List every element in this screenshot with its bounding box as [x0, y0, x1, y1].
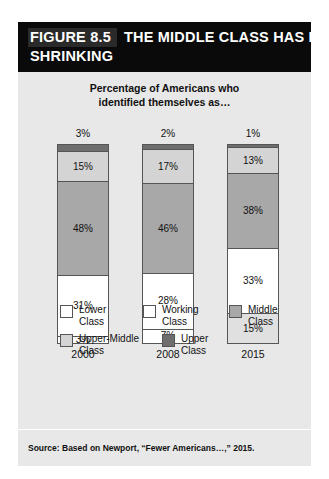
- legend-label: LowerClass: [73, 304, 106, 328]
- legend-label-line-2: Class: [181, 345, 206, 356]
- legend-label-line-1: Middle: [248, 304, 277, 315]
- legend-label-line-2: Class: [248, 316, 273, 327]
- chart-subtitle: Percentage of Americans who identified t…: [18, 72, 311, 109]
- bar-segment: 17%: [143, 150, 193, 184]
- legend-swatch-icon: [60, 334, 73, 347]
- chart-legend: LowerClassWorkingClassMiddleClassUpper-M…: [18, 304, 311, 361]
- bar-top-label: 2%: [142, 128, 194, 139]
- bar-segment: 13%: [228, 148, 278, 174]
- legend-swatch-icon: [143, 305, 156, 318]
- bar-top-label: 1%: [227, 128, 279, 139]
- legend-row: LowerClassWorkingClassMiddleClass: [60, 304, 311, 328]
- source-text: Source: Based on Newport, “Fewer America…: [28, 443, 254, 453]
- legend-label: MiddleClass: [242, 304, 277, 328]
- bar-segment: 38%: [228, 174, 278, 249]
- bar-segment: 15%: [58, 152, 108, 182]
- legend-label-line-2: Class: [162, 316, 187, 327]
- legend-label-line-1: Working: [162, 304, 199, 315]
- legend-item: LowerClass: [60, 304, 143, 328]
- legend-label: UpperClass: [175, 333, 208, 357]
- bar-segment: [58, 145, 108, 152]
- legend-label-line-2: Class: [79, 316, 104, 327]
- chart-subtitle-line-2: identified themselves as…: [99, 96, 231, 108]
- legend-row: Upper-MiddleClassUpperClass: [60, 333, 311, 357]
- figure-number: FIGURE 8.5: [28, 28, 117, 47]
- bar-segment-label: 48%: [73, 224, 93, 234]
- legend-item: Upper-MiddleClass: [60, 333, 162, 357]
- figure-title-part-2: SHRINKING: [28, 48, 301, 64]
- bar-segment-label: 13%: [243, 156, 263, 166]
- legend-label-line-1: Upper-Middle: [79, 333, 139, 344]
- legend-swatch-icon: [162, 334, 175, 347]
- title-line-1: FIGURE 8.5THE MIDDLE CLASS HAS BEEN: [28, 28, 301, 47]
- bar-segment: 48%: [58, 182, 108, 276]
- bar-top-label: 3%: [57, 128, 109, 139]
- legend-item: WorkingClass: [143, 304, 229, 328]
- figure-title-bar: FIGURE 8.5THE MIDDLE CLASS HAS BEEN SHRI…: [18, 22, 311, 72]
- chart-body: Percentage of Americans who identified t…: [18, 72, 311, 414]
- legend-item: UpperClass: [162, 333, 242, 357]
- legend-label-line-1: Upper: [181, 333, 208, 344]
- legend-item: MiddleClass: [229, 304, 309, 328]
- bar-segment-label: 33%: [243, 276, 263, 286]
- bar-segment: 46%: [143, 184, 193, 274]
- source-note: Source: Based on Newport, “Fewer America…: [18, 430, 311, 466]
- legend-label-line-1: Lower: [79, 304, 106, 315]
- legend-label: Upper-MiddleClass: [73, 333, 139, 357]
- figure-title-part-1: THE MIDDLE CLASS HAS BEEN: [117, 30, 311, 45]
- figure-card: FIGURE 8.5THE MIDDLE CLASS HAS BEEN SHRI…: [18, 22, 311, 466]
- legend-label: WorkingClass: [156, 304, 199, 328]
- legend-swatch-icon: [60, 305, 73, 318]
- chart-subtitle-line-1: Percentage of Americans who: [90, 82, 240, 94]
- bar-segment-label: 46%: [158, 224, 178, 234]
- legend-label-line-2: Class: [79, 345, 104, 356]
- bar-segment-label: 15%: [73, 162, 93, 172]
- bar-segment-label: 38%: [243, 206, 263, 216]
- bar-segment-label: 17%: [158, 162, 178, 172]
- legend-swatch-icon: [229, 305, 242, 318]
